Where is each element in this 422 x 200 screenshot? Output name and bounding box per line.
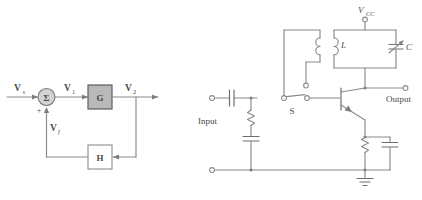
switch-terminal-right[interactable]: [305, 96, 310, 101]
switch-blade[interactable]: [286, 95, 305, 97]
signal-label-v1-subscript: 1: [72, 88, 75, 95]
supply-label-vcc-subscript: CC: [366, 10, 375, 17]
base-bias-resistor: [248, 110, 255, 126]
output-terminal[interactable]: [403, 86, 408, 91]
feedback-coil-winding: [316, 38, 320, 55]
signal-label-v2: V: [125, 83, 132, 93]
block-diagram-group: Σ + V s V 1 G V 2: [7, 83, 158, 169]
input-terminal[interactable]: [210, 96, 215, 101]
transistor-emitter-arrow: [345, 105, 352, 112]
signal-label-vs: V: [14, 83, 21, 93]
v2-arrowhead: [152, 94, 158, 99]
supply-label-vcc: V: [358, 5, 365, 15]
figure-canvas: Σ + V s V 1 G V 2: [0, 0, 422, 200]
transistor-collector-lead: [341, 88, 365, 92]
block-label-h: H: [96, 153, 103, 163]
vcc-terminal[interactable]: [363, 17, 368, 22]
capacitor-label-c: C: [406, 42, 413, 52]
summing-junction-symbol: Σ: [44, 93, 50, 103]
switch-terminal-left[interactable]: [282, 96, 287, 101]
signal-label-vs-subscript: s: [23, 88, 26, 95]
vf-arrowhead: [44, 107, 49, 113]
vs-arrowhead: [32, 94, 38, 99]
transistor-emitter-lead: [341, 105, 365, 120]
block-label-g: G: [96, 93, 103, 103]
figure-svg: Σ + V s V 1 G V 2: [0, 0, 422, 200]
emitter-resistor: [362, 137, 369, 153]
tank-inductor-winding: [334, 38, 338, 55]
input-label: Input: [198, 116, 217, 126]
ground-rail-terminal[interactable]: [210, 168, 215, 173]
switch-label-s: S: [289, 106, 294, 116]
signal-label-vf-subscript: f: [58, 128, 61, 135]
inductor-label-l: L: [340, 40, 346, 50]
signal-label-v2-subscript: 2: [133, 88, 136, 95]
signal-label-vf: V: [50, 123, 57, 133]
summing-plus-sign: +: [37, 106, 42, 115]
circuit-group: Input S L: [198, 5, 413, 186]
feedback-h-arrowhead: [113, 154, 119, 159]
v1-arrowhead: [82, 94, 88, 99]
feedback-coil-terminal[interactable]: [304, 83, 309, 88]
signal-label-v1: V: [64, 83, 71, 93]
ground-node-base: [250, 169, 253, 172]
output-label: Output: [386, 94, 412, 104]
